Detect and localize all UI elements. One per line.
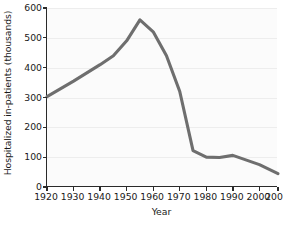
chart-figure: Hospitalized in-patients (thousands) 010…	[0, 0, 283, 226]
y-tick-label: 300	[16, 93, 42, 102]
y-tick-label: 100	[16, 152, 42, 161]
plot-area	[46, 8, 277, 187]
x-tick-label: 1970	[167, 192, 191, 201]
x-axis-label: Year	[46, 206, 277, 217]
y-tick-label: 500	[16, 33, 42, 42]
y-tick-label: 400	[16, 63, 42, 72]
x-tick-label: 1990	[220, 192, 244, 201]
x-tick-label: 1920	[34, 192, 58, 201]
y-tick-mark	[43, 7, 47, 8]
series-line-hospitalized-in-patients	[47, 8, 278, 187]
y-tick-mark	[43, 37, 47, 38]
y-tick-label: 200	[16, 122, 42, 131]
x-tick-label: 1930	[61, 192, 85, 201]
y-tick-label: 600	[16, 3, 42, 12]
y-tick-mark	[43, 97, 47, 98]
y-tick-label: 0	[16, 182, 42, 191]
x-tick-label: 1950	[114, 192, 138, 201]
y-axis-label: Hospitalized in-patients (thousands)	[0, 0, 14, 186]
x-axis-tick-labels: 1920193019401950196019701980199020002007	[46, 192, 277, 204]
x-tick-label: 2007	[265, 192, 283, 201]
x-tick-label: 1960	[140, 192, 164, 201]
x-tick-label: 1940	[87, 192, 111, 201]
y-tick-mark	[43, 67, 47, 68]
x-tick-label: 1980	[193, 192, 217, 201]
y-tick-mark	[43, 127, 47, 128]
y-tick-mark	[43, 157, 47, 158]
